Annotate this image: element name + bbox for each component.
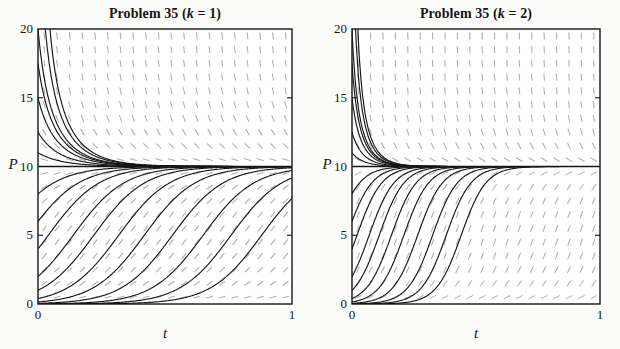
- slope-segment: [184, 46, 185, 52]
- slope-segment: [594, 74, 595, 80]
- slope-segment: [196, 33, 197, 39]
- slope-segment: [420, 88, 421, 94]
- slope-segment: [470, 74, 471, 80]
- y-tick-label: 0: [341, 296, 348, 311]
- slope-segment: [445, 88, 446, 94]
- y-tick-label: 10: [334, 159, 347, 174]
- slope-segment: [95, 33, 96, 39]
- slope-segment: [445, 74, 446, 80]
- y-tick-label: 15: [334, 90, 347, 105]
- slope-segment: [531, 88, 532, 94]
- figure-problem-35: Problem 35 (k = 1) Problem 35 (k = 2) 05…: [0, 0, 620, 349]
- slope-segment: [196, 46, 197, 52]
- slope-segment: [247, 46, 248, 52]
- y-tick-label: 5: [341, 227, 348, 242]
- slope-segment: [457, 74, 458, 80]
- slope-segment: [44, 46, 45, 52]
- slope-segment: [107, 46, 108, 52]
- slope-segment: [593, 88, 594, 94]
- slope-segment: [519, 88, 520, 94]
- slope-segment: [108, 33, 109, 39]
- slope-segment: [44, 33, 45, 39]
- slope-segment: [581, 74, 582, 80]
- slope-segment: [234, 46, 235, 52]
- slope-segment: [432, 88, 433, 94]
- slope-segment: [260, 46, 261, 52]
- slope-segment: [273, 46, 274, 52]
- slope-segment: [494, 88, 495, 94]
- slope-segment: [285, 46, 286, 52]
- slope-segment: [158, 46, 159, 52]
- slope-segment: [95, 46, 96, 52]
- x-axis-label: t: [474, 325, 479, 341]
- slope-segment: [494, 74, 495, 80]
- slope-segment: [273, 33, 274, 39]
- slope-segment: [82, 46, 83, 52]
- slope-segment: [222, 46, 223, 52]
- slope-segment: [146, 46, 147, 52]
- slope-segment: [532, 74, 533, 80]
- slope-segment: [569, 74, 570, 80]
- x-tick-label: 1: [289, 307, 296, 322]
- slope-segment: [222, 33, 223, 39]
- slope-segment: [120, 46, 121, 52]
- slope-segment: [133, 46, 134, 52]
- slope-segment: [120, 33, 121, 39]
- slope-segment: [383, 74, 384, 80]
- slope-segment: [235, 33, 236, 39]
- plot-k1-canvas: 0510152001Pt: [0, 0, 310, 349]
- slope-segment: [432, 74, 433, 80]
- slope-segment: [69, 33, 70, 39]
- slope-segment: [544, 88, 545, 94]
- slope-segment: [370, 88, 371, 94]
- y-tick-label: 15: [20, 90, 33, 105]
- slope-segment: [482, 88, 483, 94]
- slope-segment: [407, 88, 408, 94]
- slope-segment: [556, 74, 557, 80]
- x-tick-label: 1: [597, 307, 604, 322]
- slope-segment: [383, 88, 384, 94]
- slope-segment: [469, 88, 470, 94]
- y-tick-label: 20: [334, 21, 347, 36]
- slope-segment: [420, 74, 421, 80]
- slope-segment: [171, 33, 172, 39]
- slope-segment: [569, 88, 570, 94]
- slope-segment: [57, 33, 58, 39]
- slope-segment: [544, 74, 545, 80]
- slope-segment: [184, 33, 185, 39]
- slope-segment: [482, 74, 483, 80]
- slope-segment: [146, 33, 147, 39]
- slope-segment: [370, 74, 371, 80]
- slope-segment: [285, 33, 286, 39]
- slope-segment: [209, 46, 210, 52]
- plot-k2-canvas: 0510152001Pt: [310, 0, 620, 349]
- slope-segment: [69, 46, 70, 52]
- x-axis-label: t: [163, 325, 168, 341]
- slope-segment: [408, 74, 409, 80]
- x-tick-label: 0: [349, 307, 356, 322]
- slope-segment: [395, 74, 396, 80]
- y-tick-label: 0: [27, 296, 34, 311]
- slope-segment: [209, 33, 210, 39]
- y-axis-label: P: [321, 156, 331, 172]
- slope-segment: [158, 33, 159, 39]
- slope-segment: [57, 46, 58, 52]
- slope-segment: [247, 33, 248, 39]
- slope-segment: [581, 88, 582, 94]
- y-axis-label: P: [7, 156, 17, 172]
- y-tick-label: 10: [20, 159, 33, 174]
- slope-segment: [171, 46, 172, 52]
- slope-segment: [260, 33, 261, 39]
- slope-segment: [395, 88, 396, 94]
- slope-segment: [82, 33, 83, 39]
- y-tick-label: 20: [20, 21, 33, 36]
- x-tick-label: 0: [35, 307, 42, 322]
- slope-segment: [519, 74, 520, 80]
- slope-segment: [507, 88, 508, 94]
- y-tick-label: 5: [27, 227, 34, 242]
- slope-segment: [133, 33, 134, 39]
- slope-segment: [457, 88, 458, 94]
- slope-segment: [358, 88, 359, 94]
- slope-segment: [507, 74, 508, 80]
- slope-segment: [556, 88, 557, 94]
